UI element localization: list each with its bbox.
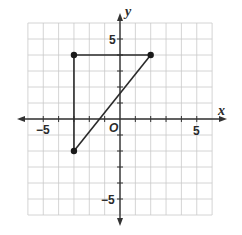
vertex-point [71, 148, 77, 154]
x-axis-label: x [217, 103, 225, 118]
y-axis-bottom-arrow-icon [117, 218, 123, 226]
coordinate-plane: x y O −5 5 5 −5 [0, 0, 242, 235]
vertex-point [148, 52, 154, 58]
y-tick-label-neg5: −5 [101, 193, 115, 207]
axes [17, 13, 227, 226]
y-axis-label: y [123, 4, 132, 19]
y-axis-top-arrow-icon [117, 13, 123, 21]
x-axis-left-arrow-icon [17, 116, 25, 122]
x-tick-label-5: 5 [193, 124, 200, 138]
y-tick-label-5: 5 [109, 33, 116, 47]
vertex-point [71, 52, 77, 58]
x-tick-label-neg5: −5 [36, 123, 50, 137]
origin-label: O [109, 121, 119, 135]
